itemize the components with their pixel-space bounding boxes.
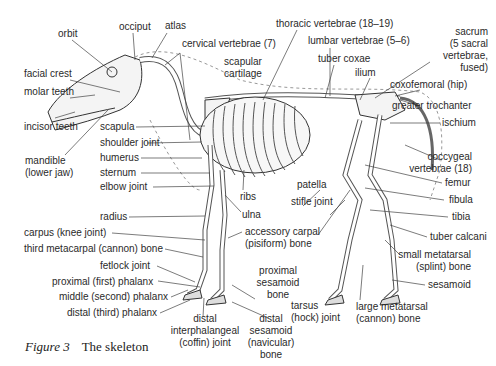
label-proximal-phalanx: proximal (first) phalanx xyxy=(52,276,153,288)
label-molar-teeth: molar teeth xyxy=(24,86,74,98)
label-incisor-teeth: incisor teeth xyxy=(24,121,78,133)
label-distal-sesamoid-line2: sesamoid xyxy=(246,325,296,337)
label-coccygeal-vertebrae: coccygeal vertebrae (18) xyxy=(400,151,472,175)
label-proximal-sesamoid-line1: proximal xyxy=(253,265,303,277)
label-scapular-cartilage-line2: cartilage xyxy=(218,68,268,80)
label-distal-interphalangeal-line3: (coffin) joint xyxy=(166,337,244,349)
label-scapula: scapula xyxy=(100,121,134,133)
label-tuber-calcani: tuber calcani xyxy=(430,231,487,243)
label-mandible: mandible (lower jaw) xyxy=(25,155,73,179)
label-proximal-sesamoid-line3: bone xyxy=(253,289,303,301)
label-small-metatarsal: small metatarsal (splint) bone xyxy=(395,249,471,273)
label-occiput: occiput xyxy=(119,21,151,33)
label-sternum: sternum xyxy=(100,167,136,179)
label-atlas: atlas xyxy=(165,20,186,32)
label-fibula: fibula xyxy=(449,194,473,206)
label-proximal-sesamoid: proximal sesamoid bone xyxy=(253,265,303,301)
label-distal-interphalangeal-line2: interphalangeal xyxy=(166,325,244,337)
label-facial-crest: facial crest xyxy=(24,68,72,80)
label-patella: patella xyxy=(297,179,326,191)
label-distal-sesamoid-line1: distal xyxy=(246,313,296,325)
label-tarsus-line2: (hock) joint xyxy=(291,312,340,324)
label-distal-sesamoid: distal sesamoid (navicular) bone xyxy=(246,313,296,361)
label-tarsus: tarsus (hock) joint xyxy=(291,300,340,324)
label-radius: radius xyxy=(100,211,127,223)
label-accessory-carpal-line1: accessory carpal xyxy=(245,226,320,238)
label-shoulder-joint: shoulder joint xyxy=(100,137,159,149)
label-large-metatarsal-line1: large metatarsal xyxy=(356,301,428,313)
label-scapular-cartilage-line1: scapular xyxy=(218,56,268,68)
label-mandible-line1: mandible xyxy=(25,155,73,167)
label-accessory-carpal: accessory carpal (pisiform) bone xyxy=(245,226,320,250)
label-proximal-sesamoid-line2: sesamoid xyxy=(253,277,303,289)
label-lumbar-vertebrae: lumbar vertebrae (5–6) xyxy=(308,35,410,47)
label-sacrum-line2: (5 sacral xyxy=(420,38,488,50)
label-sacrum-line4: fused) xyxy=(420,62,488,74)
label-femur: femur xyxy=(445,177,471,189)
label-large-metatarsal: large metatarsal (cannon) bone xyxy=(356,301,428,325)
label-ischium: ischium xyxy=(442,117,476,129)
label-scapular-cartilage: scapular cartilage xyxy=(218,56,268,80)
label-greater-trochanter: greater trochanter xyxy=(392,100,472,112)
label-distal-phalanx: distal (third) phalanx xyxy=(67,307,157,319)
label-distal-interphalangeal: distal interphalangeal (coffin) joint xyxy=(166,313,244,349)
label-coccygeal-line2: vertebrae (18) xyxy=(400,163,472,175)
label-stifle-joint: stifle joint xyxy=(291,196,333,208)
label-orbit: orbit xyxy=(58,28,77,40)
label-sacrum-line1: sacrum xyxy=(420,26,488,38)
label-tibia: tibia xyxy=(452,211,470,223)
label-ilium: ilium xyxy=(355,67,376,79)
label-distal-interphalangeal-line1: distal xyxy=(166,313,244,325)
label-third-metacarpal: third metacarpal (cannon) bone xyxy=(24,243,163,255)
label-thoracic-vertebrae: thoracic vertebrae (18–19) xyxy=(276,18,393,30)
label-small-metatarsal-line1: small metatarsal xyxy=(395,249,471,261)
label-distal-sesamoid-line4: bone xyxy=(246,349,296,361)
label-sacrum: sacrum (5 sacral vertebrae, fused) xyxy=(420,26,488,74)
label-middle-phalanx: middle (second) phalanx xyxy=(59,291,168,303)
label-carpus: carpus (knee joint) xyxy=(24,227,106,239)
label-cervical-vertebrae: cervical vertebrae (7) xyxy=(182,38,276,50)
label-ulna: ulna xyxy=(242,209,261,221)
label-coccygeal-line1: coccygeal xyxy=(400,151,472,163)
label-tarsus-line1: tarsus xyxy=(291,300,340,312)
label-coxofemoral: coxofemoral (hip) xyxy=(390,79,467,91)
figure-caption: Figure 3The skeleton xyxy=(25,339,148,355)
label-sesamoid: sesamoid xyxy=(428,279,471,291)
label-ribs: ribs xyxy=(240,191,256,203)
label-fetlock-joint: fetlock joint xyxy=(100,260,150,272)
label-accessory-carpal-line2: (pisiform) bone xyxy=(245,238,320,250)
label-large-metatarsal-line2: (cannon) bone xyxy=(356,313,428,325)
figure-number: Figure 3 xyxy=(25,339,70,354)
label-sacrum-line3: vertebrae, xyxy=(420,50,488,62)
label-distal-sesamoid-line3: (navicular) xyxy=(246,337,296,349)
horse-skeleton-diagram: orbit occiput atlas cervical vertebrae (… xyxy=(0,0,496,366)
label-mandible-line2: (lower jaw) xyxy=(25,167,73,179)
label-small-metatarsal-line2: (splint) bone xyxy=(395,261,471,273)
label-elbow-joint: elbow joint xyxy=(100,181,147,193)
label-humerus: humerus xyxy=(100,152,139,164)
label-tuber-coxae: tuber coxae xyxy=(318,53,370,65)
figure-title: The skeleton xyxy=(82,339,149,354)
